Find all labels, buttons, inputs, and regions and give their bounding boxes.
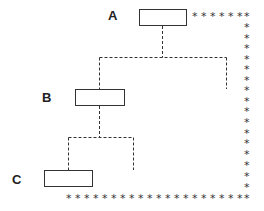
svg-text:*: *: [84, 192, 90, 205]
svg-text:*: *: [120, 192, 126, 205]
svg-text:*: *: [210, 10, 216, 23]
node-box-a: [140, 10, 187, 26]
svg-text:*: *: [192, 10, 198, 23]
node-box-b: [76, 90, 125, 106]
svg-text:*: *: [237, 192, 243, 205]
svg-text:*: *: [111, 192, 117, 205]
svg-text:*: *: [66, 192, 72, 205]
svg-text:*: *: [192, 192, 198, 205]
svg-text:*: *: [102, 192, 108, 205]
svg-text:*: *: [183, 192, 189, 205]
svg-text:*: *: [228, 192, 234, 205]
svg-text:*: *: [174, 192, 180, 205]
svg-text:*: *: [210, 192, 216, 205]
svg-text:*: *: [201, 10, 207, 23]
svg-text:*: *: [228, 10, 234, 23]
tree-diagram: * * * * * * * * * * * * * * * * * * * * …: [0, 0, 264, 211]
svg-text:*: *: [156, 192, 162, 205]
svg-text:*: *: [201, 192, 207, 205]
svg-text:*: *: [237, 10, 243, 23]
svg-text:*: *: [219, 192, 225, 205]
svg-text:*: *: [138, 192, 144, 205]
svg-text:*: *: [93, 192, 99, 205]
svg-text:*: *: [219, 10, 225, 23]
svg-text:*: *: [129, 192, 135, 205]
asterisk-path: * * * * * * * * * * * * * * * * * * * * …: [66, 10, 250, 205]
svg-text:*: *: [165, 192, 171, 205]
svg-text:*: *: [147, 192, 153, 205]
svg-text:*: *: [75, 192, 81, 205]
svg-text:*: *: [244, 192, 250, 205]
node-box-c: [45, 171, 93, 187]
